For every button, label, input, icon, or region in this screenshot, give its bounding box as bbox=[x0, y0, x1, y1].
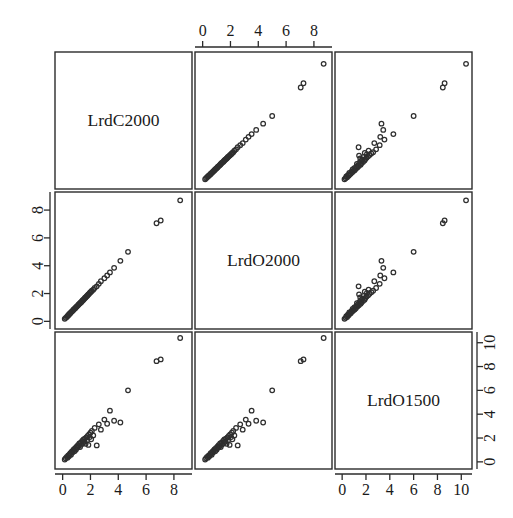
scatterplot-matrix-figure: 02468024680246802468100246810LrdC2000Lrd… bbox=[0, 0, 513, 518]
tick-label: 8 bbox=[170, 481, 178, 498]
right-axis-LrdO1500: 0246810 bbox=[477, 332, 499, 469]
tick-label: 0 bbox=[482, 458, 499, 466]
tick-label: 4 bbox=[386, 481, 394, 498]
tick-label: 0 bbox=[338, 481, 346, 498]
tick-label: 4 bbox=[254, 22, 262, 39]
tick-label: 4 bbox=[482, 410, 499, 418]
tick-label: 4 bbox=[114, 481, 122, 498]
tick-label: 2 bbox=[226, 22, 234, 39]
tick-label: 4 bbox=[30, 262, 47, 270]
tick-label: 8 bbox=[482, 363, 499, 371]
bottom-axis-LrdO1500: 0246810 bbox=[335, 474, 472, 498]
diagonal-label-LrdO1500: LrdO1500 bbox=[367, 390, 440, 410]
tick-label: 0 bbox=[59, 481, 67, 498]
tick-label: 0 bbox=[199, 22, 207, 39]
tick-label: 6 bbox=[282, 22, 290, 39]
tick-label: 0 bbox=[30, 317, 47, 325]
tick-label: 6 bbox=[482, 386, 499, 394]
left-axis-LrdO2000: 02468 bbox=[30, 192, 51, 329]
pairs-plot-canvas: 02468024680246802468100246810LrdC2000Lrd… bbox=[0, 0, 513, 518]
tick-label: 2 bbox=[362, 481, 370, 498]
tick-label: 2 bbox=[30, 290, 47, 298]
tick-label: 10 bbox=[482, 335, 499, 351]
tick-label: 8 bbox=[433, 481, 441, 498]
tick-label: 6 bbox=[142, 481, 150, 498]
tick-label: 6 bbox=[30, 234, 47, 242]
tick-label: 8 bbox=[30, 206, 47, 214]
diagonal-label-LrdO2000: LrdO2000 bbox=[227, 250, 300, 270]
tick-label: 8 bbox=[310, 22, 318, 39]
diagonal-label-LrdC2000: LrdC2000 bbox=[88, 110, 160, 130]
tick-label: 2 bbox=[482, 434, 499, 442]
tick-label: 2 bbox=[86, 481, 94, 498]
top-axis-LrdO2000: 02468 bbox=[195, 22, 332, 47]
tick-label: 10 bbox=[453, 481, 469, 498]
bottom-axis-LrdC2000: 02468 bbox=[55, 474, 192, 498]
tick-label: 6 bbox=[410, 481, 418, 498]
